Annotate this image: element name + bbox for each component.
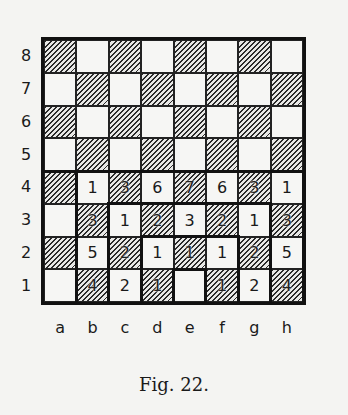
- square-c3: 1: [109, 204, 141, 237]
- square-g8: [238, 40, 270, 73]
- square-a7: [44, 73, 76, 106]
- square-c4: 3: [109, 171, 141, 204]
- square-number: 6: [152, 178, 162, 197]
- square-number: 2: [152, 211, 162, 230]
- square-d7: [141, 73, 173, 106]
- square-number: 2: [249, 243, 259, 262]
- square-b5: [76, 138, 108, 171]
- square-number: 6: [217, 178, 227, 197]
- square-number: 3: [282, 211, 292, 230]
- square-e2: 1: [174, 237, 206, 270]
- square-g2: 2: [238, 237, 270, 270]
- square-c5: [109, 138, 141, 171]
- file-label-h: h: [277, 318, 297, 337]
- rank-label-2: 2: [16, 243, 36, 262]
- square-e8: [174, 40, 206, 73]
- square-number: 3: [120, 178, 130, 197]
- file-label-d: d: [147, 318, 167, 337]
- square-d4: 6: [141, 171, 173, 204]
- square-a6: [44, 106, 76, 139]
- square-h3: 3: [271, 204, 303, 237]
- square-number: 2: [249, 276, 259, 295]
- square-e3: 3: [174, 204, 206, 237]
- square-b8: [76, 40, 108, 73]
- square-c6: [109, 106, 141, 139]
- square-h1: 4: [271, 269, 303, 302]
- rank-label-3: 3: [16, 210, 36, 229]
- square-d8: [141, 40, 173, 73]
- square-number: 1: [217, 243, 227, 262]
- square-d5: [141, 138, 173, 171]
- square-number: 3: [87, 211, 97, 230]
- square-h5: [271, 138, 303, 171]
- square-a5: [44, 138, 76, 171]
- square-a4: [44, 171, 76, 204]
- square-h7: [271, 73, 303, 106]
- file-label-b: b: [83, 318, 103, 337]
- square-c2: 2: [109, 237, 141, 270]
- square-f8: [206, 40, 238, 73]
- square-e7: [174, 73, 206, 106]
- square-b4: 1: [76, 171, 108, 204]
- square-number: 1: [185, 243, 195, 262]
- file-label-f: f: [212, 318, 232, 337]
- square-e4: 7: [174, 171, 206, 204]
- square-b6: [76, 106, 108, 139]
- square-g1: 2: [238, 269, 270, 302]
- square-d1: 1: [141, 269, 173, 302]
- square-number: 4: [87, 276, 97, 295]
- square-h6: [271, 106, 303, 139]
- square-number: 5: [87, 243, 97, 262]
- square-f6: [206, 106, 238, 139]
- file-label-c: c: [115, 318, 135, 337]
- square-number: 7: [185, 178, 195, 197]
- rank-label-8: 8: [16, 46, 36, 65]
- square-e5: [174, 138, 206, 171]
- rank-label-4: 4: [16, 177, 36, 196]
- file-label-e: e: [180, 318, 200, 337]
- square-f1: 1: [206, 269, 238, 302]
- square-number: 1: [282, 178, 292, 197]
- square-g3: 1: [238, 204, 270, 237]
- square-g4: 3: [238, 171, 270, 204]
- rank-label-1: 1: [16, 276, 36, 295]
- square-number: 1: [152, 276, 162, 295]
- square-d3: 2: [141, 204, 173, 237]
- square-h8: [271, 40, 303, 73]
- square-number: 1: [152, 243, 162, 262]
- square-number: 2: [217, 211, 227, 230]
- square-f3: 2: [206, 204, 238, 237]
- file-label-a: a: [50, 318, 70, 337]
- square-g7: [238, 73, 270, 106]
- square-number: 4: [282, 276, 292, 295]
- rank-label-5: 5: [16, 145, 36, 164]
- square-e1: [174, 269, 206, 302]
- square-g6: [238, 106, 270, 139]
- square-d6: [141, 106, 173, 139]
- square-a2: [44, 237, 76, 270]
- square-h2: 5: [271, 237, 303, 270]
- square-g5: [238, 138, 270, 171]
- square-number: 1: [249, 211, 259, 230]
- file-label-g: g: [244, 318, 264, 337]
- square-e6: [174, 106, 206, 139]
- square-b7: [76, 73, 108, 106]
- square-a1: [44, 269, 76, 302]
- square-number: 1: [217, 276, 227, 295]
- square-b3: 3: [76, 204, 108, 237]
- square-f2: 1: [206, 237, 238, 270]
- square-b1: 4: [76, 269, 108, 302]
- square-number: 1: [87, 178, 97, 197]
- square-b2: 5: [76, 237, 108, 270]
- rank-label-6: 6: [16, 112, 36, 131]
- square-f4: 6: [206, 171, 238, 204]
- figure-caption: Fig. 22.: [0, 374, 348, 395]
- square-f5: [206, 138, 238, 171]
- square-number: 3: [249, 178, 259, 197]
- square-number: 5: [282, 243, 292, 262]
- square-number: 2: [120, 243, 130, 262]
- square-f7: [206, 73, 238, 106]
- square-h4: 1: [271, 171, 303, 204]
- square-c1: 2: [109, 269, 141, 302]
- square-number: 1: [120, 211, 130, 230]
